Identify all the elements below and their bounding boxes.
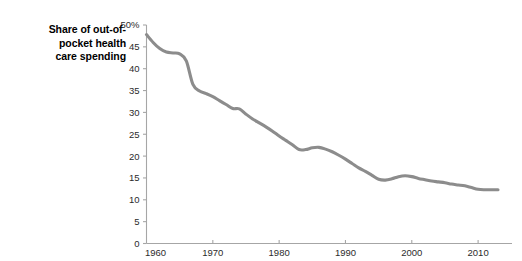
- y-axis-tick-label: 25: [129, 129, 140, 140]
- y-axis-tick-label: 50%: [120, 19, 140, 30]
- y-axis: 05101520253035404550%: [120, 19, 146, 249]
- y-axis-tick-label: 45: [129, 41, 140, 52]
- x-axis-tick-label: 2000: [401, 247, 422, 258]
- chart-figure: Share of out-of- pocket health care spen…: [0, 0, 522, 261]
- data-series-group: [147, 35, 499, 190]
- x-axis: 196019701980199020002010: [145, 240, 512, 258]
- y-axis-tick-label: 20: [129, 151, 140, 162]
- y-axis-tick-label: 30: [129, 107, 140, 118]
- y-axis-tick-label: 0: [134, 238, 139, 249]
- y-axis-tick-label: 40: [129, 63, 140, 74]
- y-axis-tick-label: 10: [129, 194, 140, 205]
- y-axis-tick-label: 35: [129, 85, 140, 96]
- y-axis-tick-label: 15: [129, 172, 140, 183]
- x-axis-tick-label: 1970: [202, 247, 223, 258]
- x-axis-tick-label: 2010: [468, 247, 489, 258]
- line-chart-plot: 05101520253035404550% 196019701980199020…: [0, 0, 522, 261]
- x-axis-tick-label: 1960: [145, 247, 166, 258]
- x-axis-tick-label: 1990: [335, 247, 356, 258]
- y-axis-tick-label: 5: [134, 216, 139, 227]
- x-axis-tick-label: 1980: [269, 247, 290, 258]
- data-line-out-of-pocket-share: [147, 35, 499, 190]
